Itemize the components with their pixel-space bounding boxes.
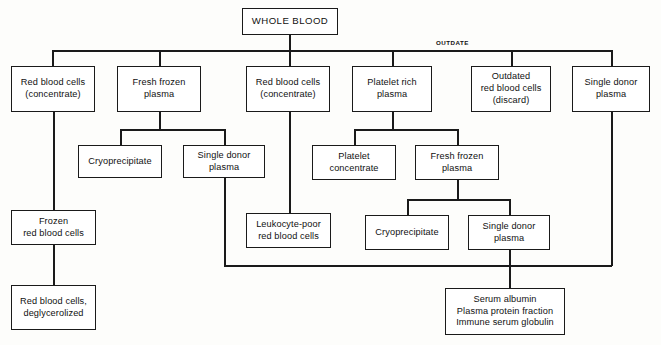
connector-bottom-to-derivatives [509,265,511,288]
connector-ffp1-stem [159,112,161,129]
connector-drop-cryo2 [407,199,409,215]
node-leukocyte-poor-rbc[interactable]: Leukocyte-poor red blood cells [246,213,331,248]
node-single-donor-plasma-2[interactable]: Single donor plasma [468,215,550,250]
node-rbc-concentrate-left[interactable]: Red blood cells (concentrate) [11,66,95,112]
connector-whole-blood-stem [289,35,291,50]
connector-rbc-mid-stem [289,112,291,213]
connector-ffp2-stem [457,180,459,199]
node-label: Serum albumin Plasma protein fraction Im… [448,294,562,329]
node-label: Single donor plasma [575,77,647,101]
connector-drop-ffp1 [159,50,161,66]
node-label: Leukocyte-poor red blood cells [249,219,328,243]
connector-main-bus [52,50,611,52]
node-single-donor-plasma-1[interactable]: Single donor plasma [183,145,265,178]
node-platelet-rich-plasma[interactable]: Platelet rich plasma [352,66,432,112]
node-label: Outdated red blood cells (discard) [474,71,548,106]
connector-ffp2-bus [407,199,510,201]
node-label: Single donor plasma [471,221,547,245]
node-rbc-deglycerolized[interactable]: Red blood cells, deglycerolized [11,285,96,330]
node-label: Single donor plasma [186,150,262,174]
connector-sdp2-to-bottom [509,250,511,265]
connector-drop-outdated [511,50,513,66]
node-single-donor-plasma-top[interactable]: Single donor plasma [572,66,650,112]
outdate-annotation: OUTDATE [436,39,469,46]
connector-bottom-bus [224,265,612,267]
connector-sdp1-down [224,178,226,266]
node-label: Cryoprecipitate [81,156,159,168]
connector-prp-bus [354,129,457,131]
connector-drop-sdp2 [509,199,511,215]
connector-drop-ffp2 [457,129,459,145]
connector-rbc-left-stem [53,112,55,210]
node-fresh-frozen-plasma-2[interactable]: Fresh frozen plasma [415,145,499,180]
connector-drop-cryo1 [120,129,122,145]
node-label: Red blood cells (concentrate) [249,77,327,101]
node-rbc-concentrate-mid[interactable]: Red blood cells (concentrate) [246,66,330,112]
node-frozen-rbc[interactable]: Frozen red blood cells [11,210,96,245]
flowchart-canvas: OUTDATE WHOLE BLOODRed blood cells (conc… [0,0,661,345]
node-outdated-rbc[interactable]: Outdated red blood cells (discard) [471,66,551,112]
node-fresh-frozen-plasma-1[interactable]: Fresh frozen plasma [117,66,201,112]
node-label: Red blood cells, deglycerolized [14,296,93,320]
node-label: Cryoprecipitate [368,227,446,239]
node-platelet-concentrate[interactable]: Platelet concentrate [312,145,396,180]
connector-drop-sdp1 [224,129,226,145]
connector-drop-rbc-left [52,50,54,66]
node-label: WHOLE BLOOD [245,15,335,27]
node-label: Red blood cells (concentrate) [14,77,92,101]
node-cryoprecipitate-1[interactable]: Cryoprecipitate [78,145,162,178]
connector-drop-rbc-mid [289,50,291,66]
node-label: Fresh frozen plasma [418,151,496,175]
node-whole-blood[interactable]: WHOLE BLOOD [242,8,338,35]
connector-drop-sdp-top [611,50,613,66]
node-plasma-derivatives[interactable]: Serum albumin Plasma protein fraction Im… [445,288,565,335]
node-cryoprecipitate-2[interactable]: Cryoprecipitate [365,215,449,250]
connector-prp-stem [392,112,394,129]
node-label: Platelet concentrate [315,151,393,175]
connector-sdp-top-down [611,112,613,266]
connector-frozen-to-degly [53,245,55,285]
node-label: Fresh frozen plasma [120,77,198,101]
connector-ffp1-bus [120,129,225,131]
connector-drop-prp [392,50,394,66]
node-label: Frozen red blood cells [14,216,93,240]
node-label: Platelet rich plasma [355,77,429,101]
connector-drop-platelet-conc [354,129,356,145]
